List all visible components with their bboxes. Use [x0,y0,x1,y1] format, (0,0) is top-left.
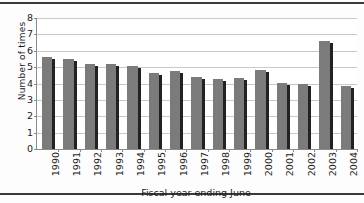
bar [42,57,53,149]
x-axis-category-label: 1996 [179,152,189,176]
y-axis-tick-label: 1 [27,128,33,138]
bar [234,78,245,149]
bar-shadow-edge [266,72,269,149]
bar [149,73,160,149]
bar-shadow-edge [159,75,162,149]
y-axis-tick-label: 6 [27,46,33,56]
bar [277,83,288,149]
bar [213,79,224,149]
bar [341,86,352,149]
chart-screenshot: Number of times 012345678 19901991199219… [0,0,364,203]
bar [298,84,309,150]
y-axis-tick-label: 4 [27,79,33,89]
bar-shadow-edge [138,68,141,150]
bar-shadow-edge [202,79,205,149]
y-axis-tick-label: 3 [27,95,33,105]
bar-group [42,18,56,149]
x-axis-category-label: 1990 [51,152,61,176]
y-axis-tick-label: 8 [27,13,33,23]
x-axis-category-label: 1991 [72,152,82,176]
bar-shadow-edge [95,66,98,149]
x-axis-category-label: 2004 [349,152,359,176]
bar-group [277,18,291,149]
bar [255,70,266,149]
x-axis-category-label: 2000 [264,152,274,176]
bar [63,59,74,149]
bars-group [37,18,357,149]
x-axis-category-label: 1993 [115,152,125,176]
plot-area: 012345678 [36,18,357,150]
bar-group [298,18,312,149]
bar-group [191,18,205,149]
bar-group [341,18,355,149]
bar-group [106,18,120,149]
x-axis-category-label: 2002 [307,152,317,176]
y-axis-tick-mark [34,149,37,150]
y-axis-tick-label: 0 [27,144,33,154]
bar-shadow-edge [223,81,226,149]
bar-group [85,18,99,149]
bar-group [319,18,333,149]
bar-group [234,18,248,149]
bar-group [255,18,269,149]
bar [85,64,96,149]
bar [106,64,117,149]
bar [127,66,138,150]
bar-group [63,18,77,149]
bar-shadow-edge [330,43,333,149]
bar [319,41,330,149]
x-axis-title: Fiscal year ending June [36,187,356,198]
bar-group [213,18,227,149]
x-axis-category-label: 1998 [221,152,231,176]
bar-group [149,18,163,149]
x-axis-category-label: 1997 [200,152,210,176]
bar-shadow-edge [74,61,77,149]
x-axis-category-label: 1994 [136,152,146,176]
bar [170,71,181,149]
bar [191,77,202,149]
y-axis-tick-label: 2 [27,112,33,122]
y-axis-tick-label: 5 [27,62,33,72]
y-axis-title: Number of times [17,6,27,116]
x-axis-category-label: 1999 [243,152,253,176]
x-axis-category-label: 1995 [157,152,167,176]
bar-shadow-edge [351,88,354,149]
y-axis-tick-label: 7 [27,30,33,40]
bar-shadow-edge [52,59,55,149]
x-axis-category-label: 2001 [285,152,295,176]
x-axis-tick-labels: 1990199119921993199419951996199719981999… [36,152,356,186]
x-axis-category-label: 2003 [328,152,338,176]
bar-shadow-edge [287,85,290,149]
bar-group [170,18,184,149]
bar-chart-figure: Number of times 012345678 19901991199219… [0,4,364,193]
bar-group [127,18,141,149]
bar-shadow-edge [180,73,183,149]
bar-shadow-edge [116,66,119,149]
x-axis-category-label: 1992 [93,152,103,176]
bar-shadow-edge [308,86,311,150]
bar-shadow-edge [244,80,247,149]
